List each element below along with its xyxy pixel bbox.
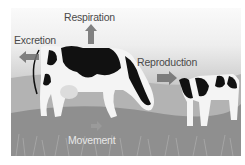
- respiration-arrow-icon: [85, 24, 97, 44]
- movement-label: Movement: [68, 134, 115, 146]
- excretion-label: Excretion: [14, 34, 56, 46]
- reproduction-label: Reproduction: [137, 56, 197, 68]
- excretion-arrow-icon: [19, 51, 39, 63]
- diagram-scene: Respiration Excretion Reproduction Movem…: [11, 8, 241, 156]
- reproduction-arrow-icon: [157, 71, 177, 85]
- respiration-label: Respiration: [64, 11, 115, 23]
- scene-graphic: [11, 8, 241, 156]
